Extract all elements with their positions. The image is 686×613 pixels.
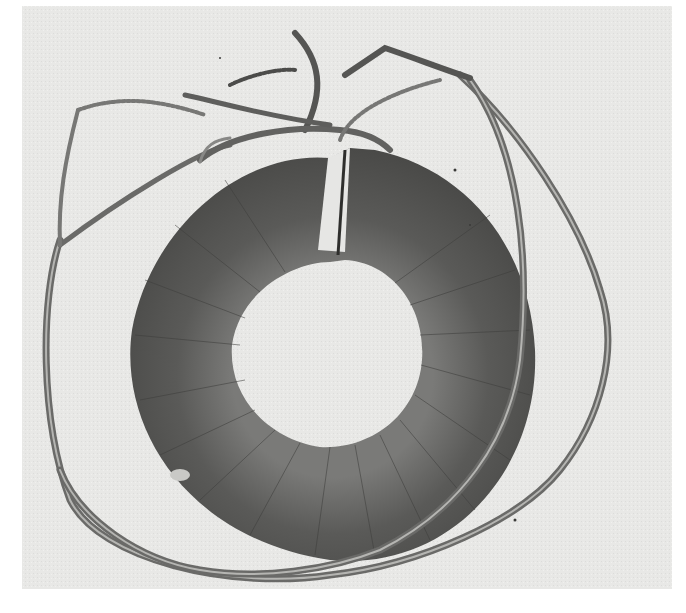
photo-canvas — [0, 0, 686, 613]
toroid-coil-photograph — [0, 0, 686, 613]
coil-mark — [170, 469, 190, 481]
